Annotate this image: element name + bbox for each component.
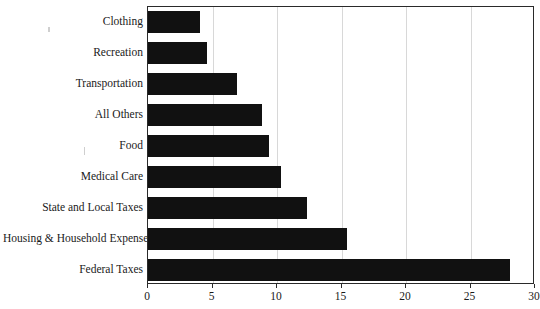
bar [148, 104, 262, 126]
bar-chart: ClothingRecreationTransportationAll Othe… [0, 0, 540, 309]
y-axis-label: Recreation [3, 46, 143, 58]
y-axis-label: Food [3, 139, 143, 151]
bar-row [148, 166, 535, 188]
y-axis-label: All Others [3, 108, 143, 120]
bar-row [148, 228, 535, 250]
bar [148, 228, 347, 250]
x-tick-mark [534, 284, 535, 288]
y-axis-label: Medical Care [3, 170, 143, 182]
bar-row [148, 197, 535, 219]
bar-row [148, 11, 535, 33]
x-tick-label: 0 [144, 290, 150, 303]
x-tick-mark [470, 284, 471, 288]
bar [148, 197, 307, 219]
plot-area [147, 6, 534, 284]
x-tick-label: 5 [209, 290, 215, 303]
bar [148, 166, 281, 188]
y-axis-label: Housing & Household Expenses [3, 232, 143, 244]
x-tick-mark [405, 284, 406, 288]
x-tick-label: 20 [399, 290, 411, 303]
bar [148, 135, 269, 157]
bar [148, 11, 200, 33]
bar-row [148, 73, 535, 95]
x-tick-label: 10 [270, 290, 282, 303]
bar-row [148, 104, 535, 126]
x-tick-mark [276, 284, 277, 288]
bar-row [148, 259, 535, 281]
bar-row [148, 135, 535, 157]
bar [148, 42, 207, 64]
x-tick-mark [212, 284, 213, 288]
x-tick-mark [341, 284, 342, 288]
bar [148, 73, 237, 95]
y-axis-label: Transportation [3, 77, 143, 89]
x-tick-label: 15 [335, 290, 347, 303]
bar [148, 259, 510, 281]
y-axis-labels: ClothingRecreationTransportationAll Othe… [0, 6, 143, 284]
y-axis-label: State and Local Taxes [3, 201, 143, 213]
x-tick-mark [147, 284, 148, 288]
y-axis-label: Clothing [3, 15, 143, 27]
bar-row [148, 42, 535, 64]
x-tick-label: 25 [464, 290, 476, 303]
y-axis-label: Federal Taxes [3, 263, 143, 275]
x-tick-label: 30 [528, 290, 540, 303]
x-axis: 051015202530 [147, 284, 534, 309]
